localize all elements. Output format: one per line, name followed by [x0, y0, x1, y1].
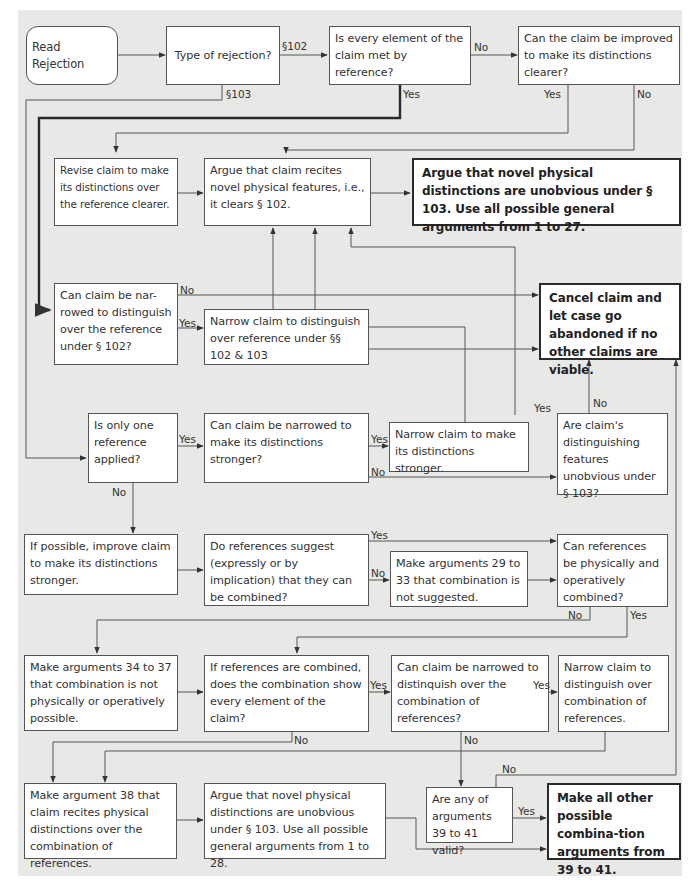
- label-s103: §103: [226, 88, 251, 100]
- decision-every-element-met: Is every element of the claim met by ref…: [329, 26, 471, 85]
- label-no-narrow-102: No: [180, 284, 194, 296]
- decision-can-narrow-102: Can claim be nar-rowed to distinguish ov…: [54, 283, 178, 365]
- label-s102: §102: [282, 40, 307, 52]
- action-argue-novel-features: Argue that claim recites novel physical …: [204, 158, 371, 226]
- label-yes-only-one-reference: Yes: [179, 433, 196, 445]
- outcome-cancel-claim: Cancel claim and let case go abandoned i…: [539, 283, 681, 360]
- label-no-references-suggest: No: [371, 567, 385, 579]
- label-yes-can-improve: Yes: [544, 88, 561, 100]
- label-no-narrow-stronger: No: [371, 466, 385, 478]
- action-narrow-102-103: Narrow claim to distinguish over referen…: [204, 309, 369, 365]
- label-no-narrow-combination: No: [464, 734, 478, 746]
- decision-can-narrow-combination: Can claim be narrowed to distinquish ove…: [391, 655, 549, 732]
- label-yes-references-suggest: Yes: [371, 529, 388, 541]
- outcome-combination-arguments-39-41: Make all other possible combina-tion arg…: [547, 783, 681, 860]
- label-yes-every-element: Yes: [403, 88, 420, 100]
- outcome-argue-unobvious-1-27: Argue that novel physical distinctions a…: [412, 158, 681, 226]
- decision-arguments-39-41-valid: Are any of arguments 39 to 41 valid?: [426, 787, 513, 843]
- action-arguments-34-37: Make arguments 34 to 37 that combination…: [24, 655, 178, 731]
- action-improve-claim: If possible, improve claim to make its d…: [24, 534, 178, 595]
- action-revise-claim: Revise claim to make its distinctions ov…: [54, 158, 178, 226]
- action-arguments-29-33: Make arguments 29 to 33 that combination…: [390, 551, 528, 607]
- label-yes-unobvious: Yes: [534, 402, 551, 414]
- label-no-unobvious: No: [593, 397, 607, 409]
- label-no-only-one-reference: No: [112, 486, 126, 498]
- decision-combination-every-element: If references are combined, does the com…: [204, 655, 369, 732]
- label-yes-physically-combine: Yes: [630, 609, 647, 621]
- start-node-read-rejection: Read Rejection: [26, 26, 118, 85]
- label-yes-narrow-combination: Yes: [533, 679, 550, 691]
- action-narrow-stronger: Narrow claim to make its distinctions st…: [389, 422, 529, 472]
- label-yes-arguments-39-41: Yes: [518, 805, 535, 817]
- decision-type-of-rejection: Type of rejection?: [166, 26, 280, 85]
- label-no-physically-combine: No: [568, 609, 582, 621]
- label-yes-narrow-102: Yes: [179, 317, 196, 329]
- label-yes-narrow-stronger: Yes: [371, 433, 388, 445]
- label-no-can-improve: No: [637, 88, 651, 100]
- decision-can-improve-clearer: Can the claim be improved to make its di…: [518, 26, 680, 85]
- decision-references-suggest-combination: Do references suggest (expressly or by i…: [204, 534, 369, 606]
- action-argument-38: Make argument 38 that claim recites phys…: [24, 783, 177, 859]
- decision-can-narrow-stronger: Can claim be narrowed to make its distin…: [204, 413, 369, 483]
- label-no-every-element: No: [474, 41, 488, 53]
- action-argue-unobvious-1-28: Argue that novel physical distinctions a…: [204, 783, 386, 859]
- label-no-combination-every-element: No: [294, 734, 308, 746]
- decision-only-one-reference: Is only one reference applied?: [88, 413, 178, 483]
- label-no-arguments-39-41: No: [502, 763, 516, 775]
- decision-features-unobvious-103: Are claim's distinguishing features unob…: [557, 413, 668, 495]
- decision-can-physically-combine: Can references be physically and operati…: [557, 534, 668, 607]
- label-yes-combination-every-element: Yes: [370, 679, 387, 691]
- action-narrow-combination: Narrow claim to distinguish over combina…: [558, 655, 669, 732]
